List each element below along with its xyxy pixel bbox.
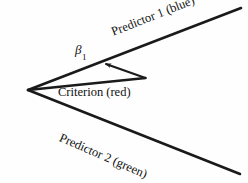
beta1-projection-arrow	[106, 64, 146, 78]
beta-symbol: β	[75, 42, 81, 57]
vector-diagram-figure: Predictor 1 (blue) Criterion (red) Predi…	[0, 0, 248, 183]
beta-subscript: 1	[82, 52, 87, 62]
beta1-label: β1	[75, 43, 86, 60]
criterion-label: Criterion (red)	[58, 86, 131, 99]
